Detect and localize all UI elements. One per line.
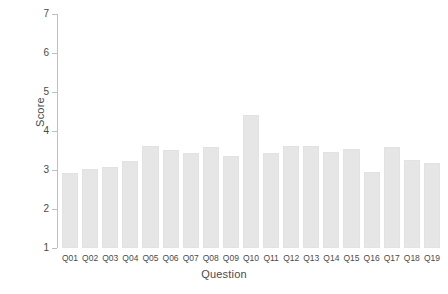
y-axis-tick bbox=[52, 131, 57, 132]
bar bbox=[364, 172, 380, 248]
x-axis-tick-label: Q10 bbox=[241, 252, 261, 264]
y-axis-tick-label-text: 3 bbox=[13, 165, 49, 175]
x-axis-tick-label: Q09 bbox=[221, 252, 241, 264]
x-axis-tick-label: Q04 bbox=[120, 252, 140, 264]
x-axis-tick-label: Q03 bbox=[100, 252, 120, 264]
x-axis-tick-label: Q16 bbox=[362, 252, 382, 264]
y-axis-tick-label: 4 bbox=[13, 126, 49, 136]
x-axis-tick-label: Q02 bbox=[80, 252, 100, 264]
x-axis-tick-label: Q19 bbox=[422, 252, 442, 264]
bar bbox=[223, 156, 239, 248]
x-axis-tick-label: Q06 bbox=[161, 252, 181, 264]
bar bbox=[82, 169, 98, 248]
y-axis-tick-label-text: 1 bbox=[13, 243, 49, 253]
bar bbox=[122, 161, 138, 248]
x-axis-title: Question bbox=[0, 268, 448, 280]
y-axis-tick bbox=[52, 53, 57, 54]
bar bbox=[163, 150, 179, 248]
y-axis-tick bbox=[52, 170, 57, 171]
bar bbox=[424, 163, 440, 248]
y-axis-tick-label-text: 2 bbox=[13, 204, 49, 214]
bar bbox=[62, 173, 78, 248]
x-axis-tick-label: Q14 bbox=[321, 252, 341, 264]
y-axis-tick bbox=[52, 92, 57, 93]
bar bbox=[343, 149, 359, 248]
y-axis-tick-label: 7 bbox=[13, 9, 49, 19]
y-axis-tick-label: 2 bbox=[13, 204, 49, 214]
plot-area bbox=[58, 14, 440, 248]
y-axis-tick-label: 6 bbox=[13, 48, 49, 58]
x-axis-tick-label: Q13 bbox=[301, 252, 321, 264]
bar-chart: Score 1234567 Q01Q02Q03Q04Q05Q06Q07Q08Q0… bbox=[0, 0, 448, 294]
y-axis-tick bbox=[52, 14, 57, 15]
x-axis-tick-label: Q11 bbox=[261, 252, 281, 264]
y-axis-tick-label: 3 bbox=[13, 165, 49, 175]
y-axis-tick-label-text: 5 bbox=[13, 87, 49, 97]
x-axis-tick-label: Q05 bbox=[140, 252, 160, 264]
bar bbox=[384, 147, 400, 248]
x-axis-tick-label: Q15 bbox=[341, 252, 361, 264]
y-axis-tick-label: 5 bbox=[13, 87, 49, 97]
bar bbox=[243, 115, 259, 248]
y-axis-tick bbox=[52, 209, 57, 210]
bar bbox=[263, 153, 279, 248]
x-axis-tick-label: Q07 bbox=[181, 252, 201, 264]
y-axis-tick-label-text: 6 bbox=[13, 48, 49, 58]
bar bbox=[283, 146, 299, 248]
bar bbox=[102, 167, 118, 248]
bar bbox=[323, 152, 339, 248]
bar bbox=[303, 146, 319, 248]
x-axis-tick-label: Q01 bbox=[60, 252, 80, 264]
y-axis-tick-label: 1 bbox=[13, 243, 49, 253]
x-axis-tick-label: Q17 bbox=[382, 252, 402, 264]
x-axis-tick-label: Q12 bbox=[281, 252, 301, 264]
x-axis-tick-label: Q18 bbox=[402, 252, 422, 264]
bar bbox=[404, 160, 420, 248]
x-axis-tick-label: Q08 bbox=[201, 252, 221, 264]
bar bbox=[183, 153, 199, 248]
y-axis-tick bbox=[52, 248, 57, 249]
bar bbox=[142, 146, 158, 248]
y-axis-tick-label-text: 4 bbox=[13, 126, 49, 136]
y-axis-tick-label-text: 7 bbox=[13, 9, 49, 19]
bar bbox=[203, 147, 219, 248]
x-axis-tick-labels: Q01Q02Q03Q04Q05Q06Q07Q08Q09Q10Q11Q12Q13Q… bbox=[58, 252, 440, 266]
